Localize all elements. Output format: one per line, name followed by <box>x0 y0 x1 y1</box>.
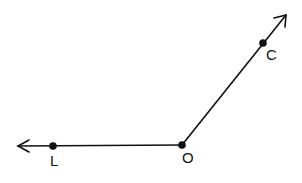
point-O <box>178 141 186 149</box>
label-O: O <box>182 149 194 166</box>
label-C: C <box>266 46 277 63</box>
label-L: L <box>50 152 58 169</box>
ray-OC <box>182 15 286 145</box>
angle-diagram: L O C <box>0 0 302 183</box>
ray-OL <box>18 145 182 146</box>
point-L <box>49 142 57 150</box>
